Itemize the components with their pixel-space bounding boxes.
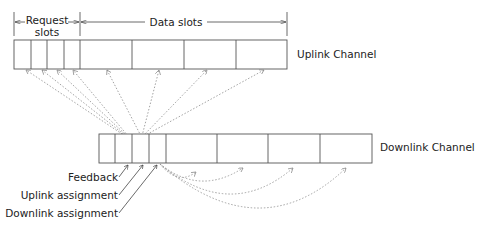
downlink-channel: [99, 134, 372, 163]
downlink-channel-label: Downlink Channel: [380, 141, 475, 153]
annotation-leaders: [119, 165, 157, 213]
arrow-to-request-slot-3: [57, 70, 127, 136]
downlink-frame: [99, 134, 372, 163]
diagram-canvas: Request slots Data slots Uplink Channel …: [0, 0, 481, 237]
uplink-assignment-label: Uplink assignment: [21, 189, 118, 201]
arrow-to-data-slot-3: [143, 70, 207, 136]
arrow-to-request-slot-2: [42, 70, 126, 136]
feedback-leader: [119, 165, 128, 177]
arrow-to-request-slot-4: [73, 70, 128, 136]
data-slots-label: Data slots: [150, 16, 203, 28]
arrow-to-data-slot-2: [142, 70, 159, 136]
downlink-assignment-arrows: [160, 164, 346, 208]
arrow-to-downlink-data-slot-4: [160, 164, 346, 208]
arrow-to-downlink-data-slot-2: [160, 164, 243, 181]
downlink-assignment-label: Downlink assignment: [5, 207, 118, 219]
request-slots-label-line2: slots: [35, 26, 59, 38]
arrow-to-request-slot-1: [26, 70, 125, 136]
arrow-to-downlink-data-slot-3: [160, 164, 293, 194]
uplink-assignment-leader: [119, 165, 143, 195]
arrow-to-data-slot-1: [107, 70, 141, 136]
uplink-channel-label: Uplink Channel: [297, 48, 376, 60]
uplink-channel: [14, 40, 287, 69]
arrow-to-data-slot-4: [144, 70, 264, 136]
request-slots-label: Request: [26, 14, 69, 26]
feedback-label: Feedback: [68, 171, 119, 183]
uplink-frame: [14, 40, 287, 69]
uplink-assignment-arrows: [26, 70, 264, 136]
downlink-assignment-leader: [119, 165, 157, 213]
